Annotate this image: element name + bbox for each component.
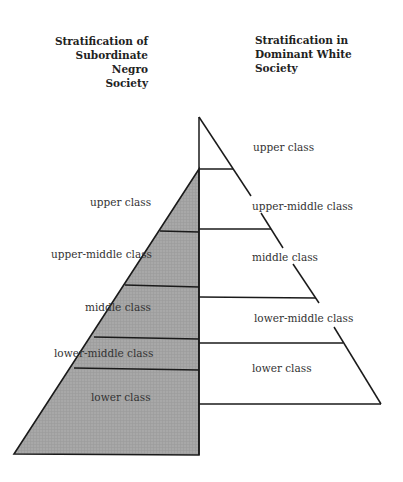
subordinate-upper-middle-class-label: upper-middle class [51,248,152,260]
dominant-pyramid [199,117,381,455]
subordinate-lower-middle-class-label: lower-middle class [54,347,153,359]
dominant-lower-middle-class-label: lower-middle class [254,312,353,324]
subordinate-upper-class-label: upper class [90,196,151,208]
subordinate-middle-class-label: middle class [85,301,151,313]
dominant-middle-class-label: middle class [252,251,318,263]
dominant-lower-class-label: lower class [252,362,312,374]
subordinate-lower-class-label: lower class [91,391,151,403]
dominant-upper-middle-class-label: upper-middle class [252,200,353,212]
dominant-upper-class-label: upper class [253,141,314,153]
stratification-diagram [0,0,403,482]
